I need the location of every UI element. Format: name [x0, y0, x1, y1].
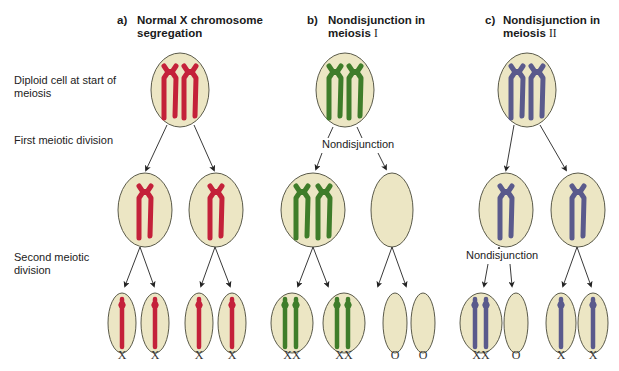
secondary-cell	[118, 173, 172, 247]
gamete-label: O	[512, 348, 521, 363]
panel-a-diagram	[108, 53, 246, 353]
gamete-cell	[460, 293, 502, 353]
meiosis-diagram	[0, 0, 619, 371]
diploid-cell-a	[151, 53, 209, 127]
gamete-label: XX	[335, 348, 352, 363]
secondary-cell-empty	[371, 173, 413, 247]
gamete-label: X	[118, 348, 127, 363]
gamete-label: XX	[472, 348, 489, 363]
gamete-cell-empty	[504, 293, 528, 353]
secondary-cell	[551, 173, 605, 247]
panel-b-diagram	[271, 53, 435, 353]
gamete-cell-empty	[411, 293, 435, 353]
diploid-cell-b	[316, 53, 374, 127]
gamete-label: X	[228, 348, 237, 363]
gamete-cell-empty	[383, 293, 407, 353]
secondary-cell	[189, 173, 243, 247]
secondary-cell-with-both-x	[281, 173, 345, 247]
gamete-label: X	[589, 348, 598, 363]
gamete-label: O	[419, 348, 428, 363]
gamete-label: X	[557, 348, 566, 363]
nondisjunction-label-b: Nondisjunction	[321, 138, 395, 150]
arrow	[146, 125, 167, 170]
gamete-label: XX	[283, 348, 300, 363]
diploid-cell-c	[498, 53, 556, 127]
arrow	[194, 125, 214, 170]
gamete-label: X	[195, 348, 204, 363]
panel-c-diagram	[460, 53, 608, 353]
gamete-cell	[271, 293, 313, 353]
gamete-cell	[323, 293, 365, 353]
nondisjunction-label-c: Nondisjunction	[465, 249, 539, 261]
secondary-cell	[479, 173, 533, 247]
gamete-label: X	[151, 348, 160, 363]
gamete-label: O	[391, 348, 400, 363]
